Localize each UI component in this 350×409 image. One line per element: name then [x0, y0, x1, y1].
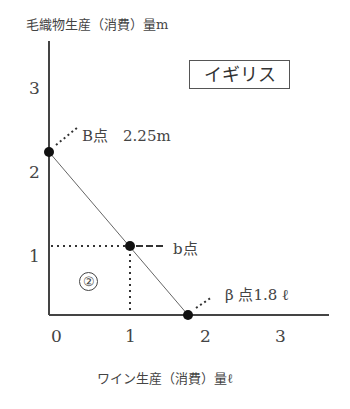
x-tick-0: 0 — [51, 326, 62, 346]
y-tick-2: 2 — [29, 162, 40, 182]
x-tick-3: 3 — [275, 326, 286, 346]
x-tick-1: 1 — [125, 326, 136, 346]
point-B-label: B点 2.25m — [82, 124, 171, 145]
y-tick-3: 3 — [29, 78, 40, 98]
frontier-line — [49, 152, 188, 315]
point-b — [125, 241, 135, 251]
y-tick-1: 1 — [29, 246, 40, 266]
region-marker: ② — [79, 272, 98, 291]
point-b-label: b点 — [173, 237, 198, 258]
point-B — [44, 147, 54, 157]
country-label: イギリス — [189, 60, 290, 89]
point-beta — [183, 310, 193, 320]
x-tick-2: 2 — [200, 326, 211, 346]
chart-canvas — [0, 0, 350, 409]
beta-pointer — [196, 297, 212, 308]
y-axis-label: 毛織物生産（消費）量m — [26, 14, 168, 33]
point-beta-label: β 点1.8 ℓ — [225, 283, 289, 304]
x-axis-label: ワイン生産（消費）量ℓ — [97, 368, 233, 387]
B-pointer — [56, 127, 78, 145]
